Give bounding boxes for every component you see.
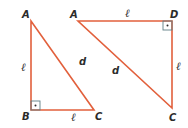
- hypotenuse-label-d2: d: [112, 65, 120, 76]
- side-label-ad: ℓ: [125, 7, 130, 20]
- right-angle-mark-d: [163, 21, 172, 30]
- vertex-label-d: D: [170, 9, 178, 20]
- triangle-adc-outline: [78, 21, 172, 108]
- hypotenuse-label-d: d: [79, 56, 87, 67]
- side-label-bc: ℓ: [71, 111, 76, 124]
- diagram-canvas: A B C ℓ ℓ d A D C ℓ ℓ d: [0, 0, 188, 128]
- vertex-label-c: C: [95, 111, 103, 122]
- vertex-label-a2: A: [69, 9, 78, 20]
- vertex-label-b: B: [22, 111, 30, 122]
- side-label-dc: ℓ: [176, 60, 181, 73]
- side-label-ab: ℓ: [21, 61, 26, 74]
- vertex-label-a: A: [21, 9, 30, 20]
- vertex-label-c2: C: [169, 112, 177, 123]
- right-angle-mark-b: [31, 101, 40, 110]
- triangle-abc: A B C ℓ ℓ d: [21, 9, 103, 124]
